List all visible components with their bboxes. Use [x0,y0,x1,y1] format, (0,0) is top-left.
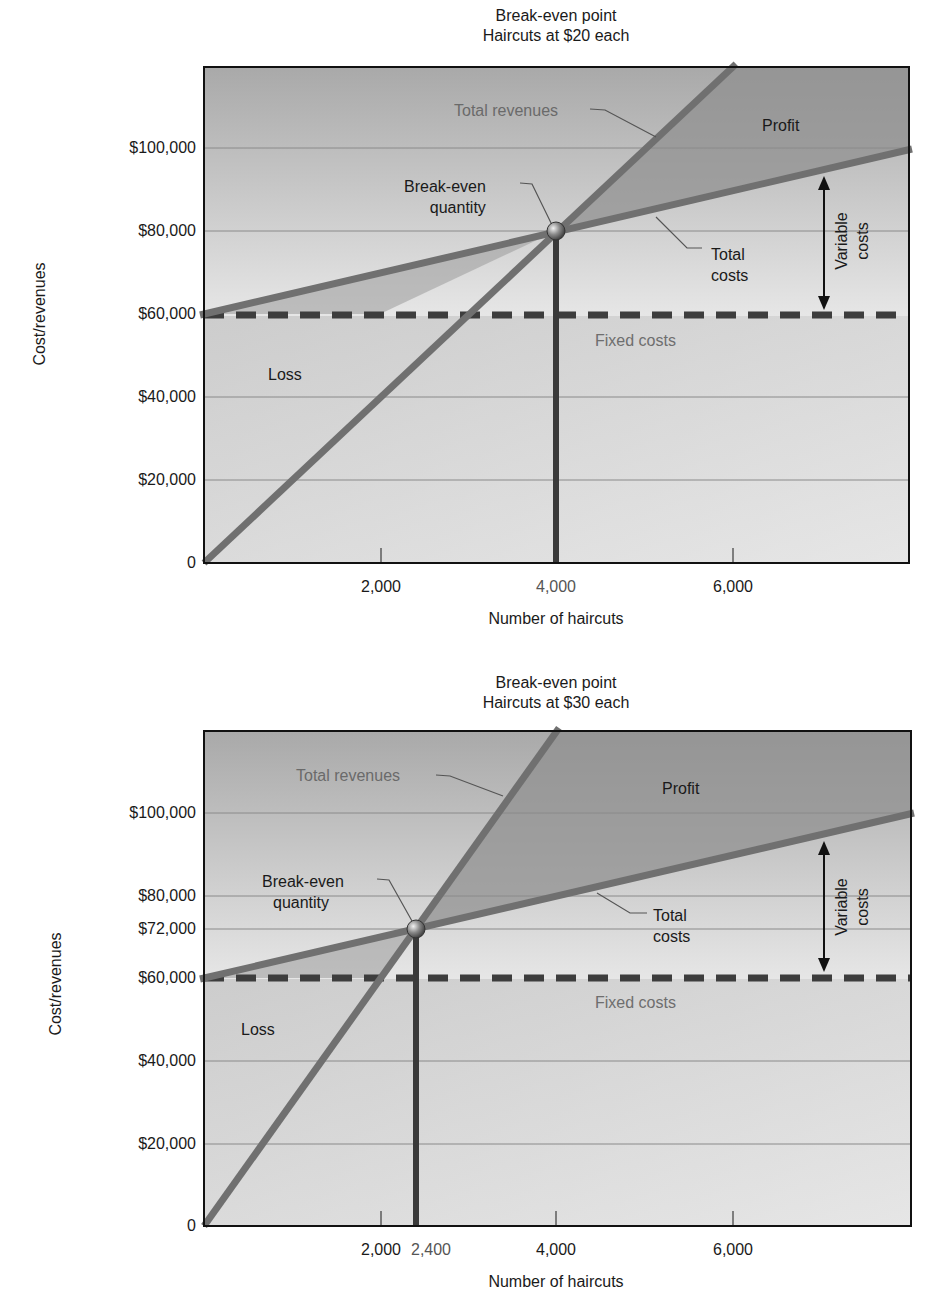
label-profit: Profit [662,778,699,799]
y-ticks: $100,000 $80,000 $72,000 $60,000 $40,000… [0,0,196,1297]
label-loss: Loss [241,1019,275,1040]
label-line: Variable [831,857,852,957]
y-tick: 0 [187,1217,196,1235]
x-tick: 6,000 [713,1241,753,1259]
y-tick: $20,000 [138,1135,196,1153]
x-axis-label: Number of haircuts [488,1273,623,1291]
y-tick: $40,000 [138,1052,196,1070]
label-total-costs: Total costs [653,905,690,947]
label-line: quantity [262,892,344,913]
y-tick: $100,000 [129,804,196,822]
label-total-revenues: Total revenues [296,765,400,786]
x-tick: 4,000 [536,1241,576,1259]
break-even-point-marker [407,920,425,938]
label-line: costs [852,857,873,957]
label-fixed-costs: Fixed costs [595,992,676,1013]
label-break-even: Break-even quantity [262,871,344,913]
label-line: Total [653,905,690,926]
label-line: costs [653,926,690,947]
y-tick: $72,000 [138,920,196,938]
y-tick: $80,000 [138,887,196,905]
x-tick: 2,000 [361,1241,401,1259]
chart-bottom: Break-even point Haircuts at $30 each [0,0,951,1297]
label-variable-costs: Variable costs [831,857,877,957]
x-tick: 2,400 [411,1241,451,1259]
y-tick: $60,000 [138,969,196,987]
label-line: Break-even [262,871,344,892]
